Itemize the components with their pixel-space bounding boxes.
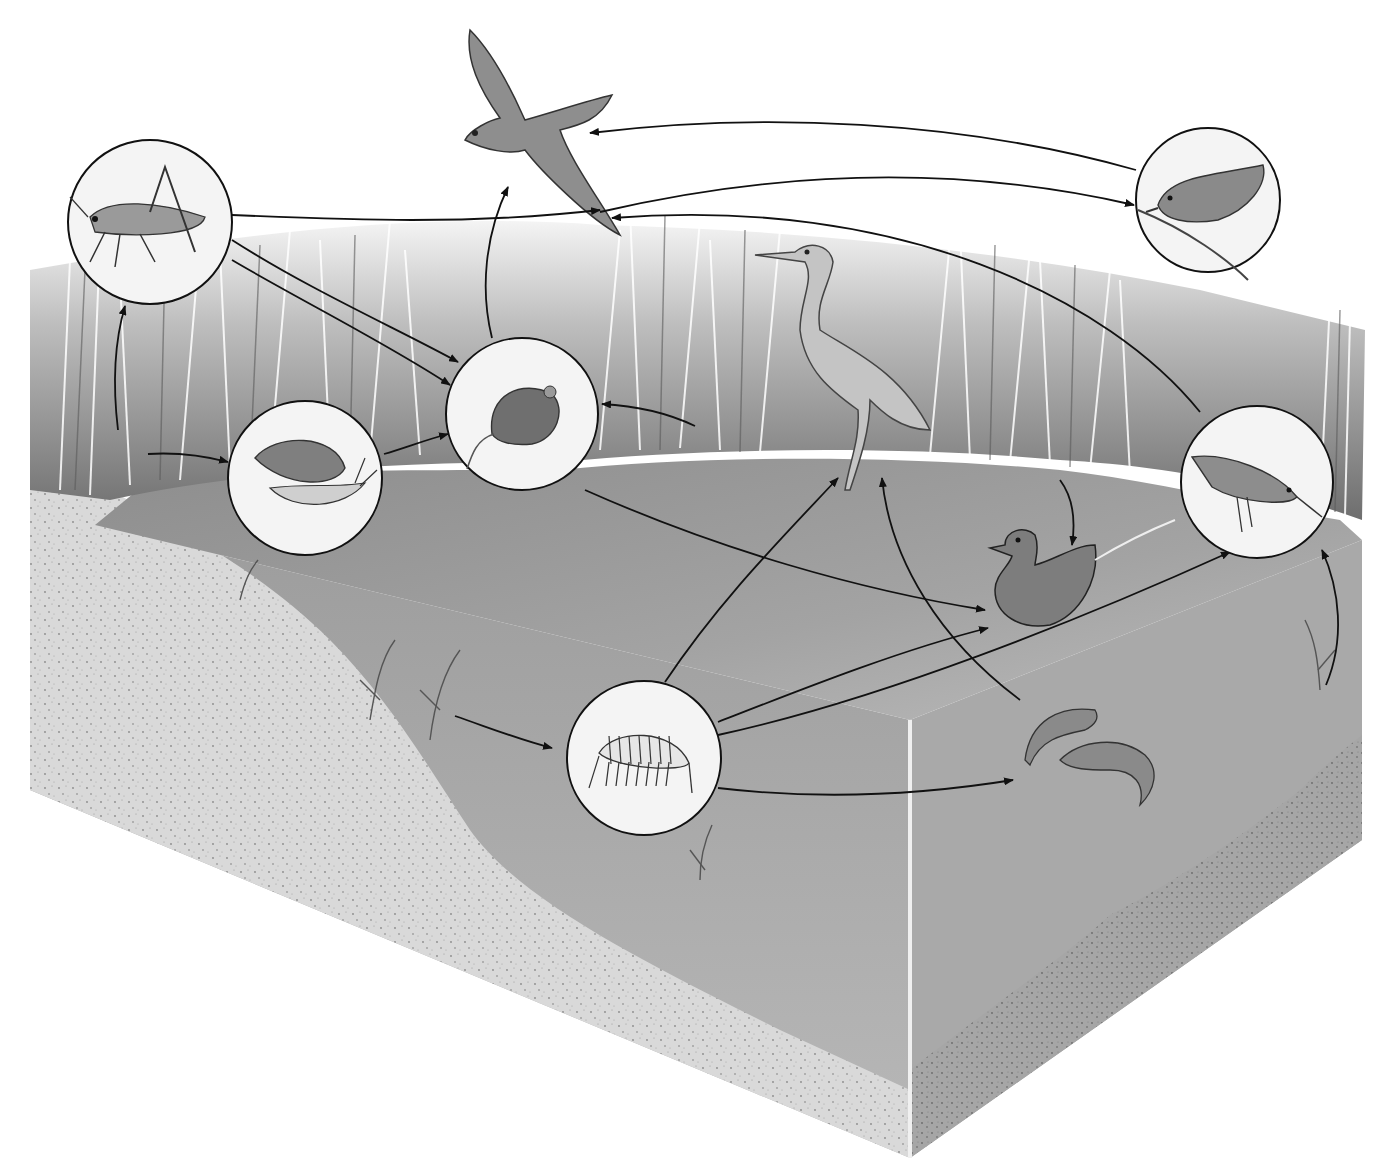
food-web-diagram xyxy=(0,0,1388,1163)
grasshopper-node xyxy=(68,140,232,304)
arrow-grasshopper-to-hawk xyxy=(232,210,600,220)
mouse-node xyxy=(446,338,598,490)
arrow-songbird-to-hawk xyxy=(590,122,1136,170)
snail-node xyxy=(228,401,382,555)
sandpiper-node xyxy=(1181,406,1333,558)
amphipod-node xyxy=(567,681,721,835)
arrow-grasshopper-to-songbird xyxy=(600,178,1134,212)
songbird-node xyxy=(1136,128,1280,280)
